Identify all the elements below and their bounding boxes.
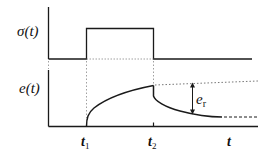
recoverable-strain-label: er	[196, 91, 207, 109]
creep-recovery-diagram: σ(t) er e(t) t1 t2	[0, 0, 271, 158]
recovery-curve	[154, 86, 223, 118]
stress-plot: σ(t)	[17, 7, 252, 59]
strain-plot: er e(t)	[19, 70, 258, 127]
creep-extrapolation-dotted	[155, 81, 258, 85]
t1-label: t1	[81, 134, 89, 151]
time-axis-label: t	[227, 134, 232, 149]
strain-ylabel: e(t)	[19, 80, 40, 97]
stress-ylabel: σ(t)	[17, 23, 39, 40]
creep-curve	[87, 86, 154, 127]
stress-pulse-line	[49, 29, 253, 60]
t2-label: t2	[148, 134, 156, 151]
recoverable-strain-arrow	[190, 83, 195, 115]
